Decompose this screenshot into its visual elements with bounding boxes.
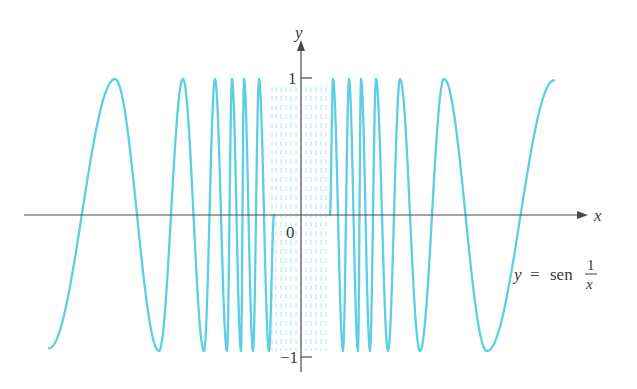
origin-label: 0 bbox=[286, 223, 295, 242]
sin-inverse-x-figure: x y 1 −1 0 y = sen 1 x bbox=[0, 0, 637, 389]
x-axis-label: x bbox=[593, 206, 602, 225]
fraction-denominator: x bbox=[585, 276, 593, 292]
y-axis-label: y bbox=[293, 23, 303, 42]
y-tick-label-minus-1: −1 bbox=[280, 348, 298, 367]
x-axis-arrow-icon bbox=[577, 211, 588, 219]
function-name: sen bbox=[550, 265, 573, 284]
y-tick-label-1: 1 bbox=[288, 69, 297, 88]
faint-dense-oscillation-lines bbox=[272, 87, 326, 351]
fraction-numerator: 1 bbox=[587, 257, 595, 273]
function-annotation: y = sen 1 x bbox=[512, 257, 597, 292]
function-lhs: y bbox=[512, 265, 522, 284]
function-equals: = bbox=[530, 265, 540, 284]
